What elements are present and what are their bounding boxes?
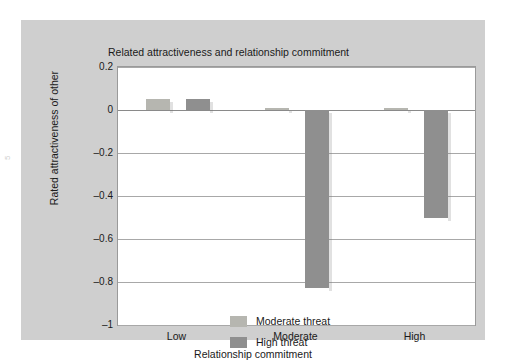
gridline: [118, 67, 475, 68]
bar: [305, 110, 329, 288]
y-axis-ticks: 0.20–0.2–0.4–0.6–0.8–1: [69, 66, 113, 326]
plot-area: Moderate threat High threat: [117, 66, 476, 326]
x-tick-label: Moderate: [273, 330, 317, 342]
figure-frame: Related attractiveness and relationship …: [21, 20, 485, 340]
bar-shadow: [289, 111, 292, 113]
bar-body: [384, 108, 408, 110]
bar-body: [186, 99, 210, 110]
y-tick-label: –1: [73, 319, 113, 330]
chart-title: Related attractiveness and relationship …: [108, 46, 349, 58]
x-tick-label: High: [404, 330, 426, 342]
gridline: [118, 196, 475, 197]
bar-shadow: [448, 113, 451, 221]
x-tick-label: Low: [167, 330, 186, 342]
y-tick-label: –0.8: [73, 276, 113, 287]
y-tick-label: –0.2: [73, 147, 113, 158]
bar: [424, 110, 448, 218]
gridline: [118, 282, 475, 283]
legend-swatch-moderate-threat: [230, 316, 247, 327]
legend-item: Moderate threat: [230, 315, 330, 327]
y-tick-label: 0.2: [73, 61, 113, 72]
y-tick-label: –0.6: [73, 233, 113, 244]
legend-swatch-high-threat: [230, 337, 247, 348]
bar-shadow: [170, 102, 173, 113]
bar-shadow: [408, 111, 411, 113]
page-margin-mark: 5: [3, 157, 12, 160]
bar-shadow: [329, 113, 332, 291]
bar-body: [424, 110, 448, 218]
bar-shadow: [210, 102, 213, 113]
bar: [146, 99, 170, 110]
legend-label-moderate-threat: Moderate threat: [256, 315, 330, 327]
y-axis-label: Rated attractiveness of other: [48, 43, 60, 233]
x-axis-label: Relationship commitment: [21, 348, 485, 360]
gridline: [118, 153, 475, 154]
bar: [384, 108, 408, 110]
y-tick-label: 0: [73, 104, 113, 115]
bar: [186, 99, 210, 110]
bar-body: [265, 108, 289, 110]
bar-body: [305, 110, 329, 288]
y-tick-label: –0.4: [73, 190, 113, 201]
gridline: [118, 239, 475, 240]
bar: [265, 108, 289, 110]
bar-body: [146, 99, 170, 110]
